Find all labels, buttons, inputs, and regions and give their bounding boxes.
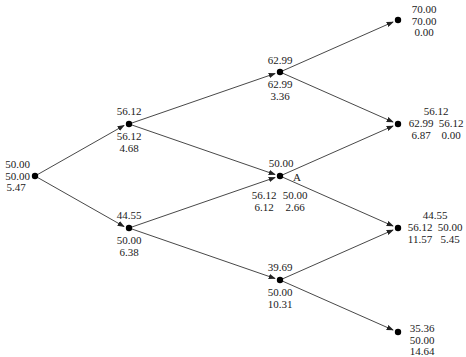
node-n31-left-labels: 56.12 11.57 <box>405 222 435 245</box>
node-n20-bottom-labels: 50.00 10.31 <box>264 287 296 310</box>
edge-n20-n31 <box>280 230 393 280</box>
n31-top-label: 44.55 <box>419 210 451 222</box>
node-n00-labels: 50.00 50.00 5.47 <box>2 159 30 194</box>
edge-n00-n10 <box>35 176 124 227</box>
node-n31 <box>395 225 401 231</box>
node-n21 <box>277 173 283 179</box>
n22-bottom-1: 62.99 <box>264 79 296 91</box>
edge-n10-n20 <box>129 228 275 279</box>
edge-n11-n22 <box>129 74 275 125</box>
node-n22 <box>277 69 283 75</box>
n30-value-3: 14.64 <box>406 346 438 357</box>
n32-left-1: 62.99 <box>407 118 435 130</box>
n31-left-2: 11.57 <box>405 234 435 246</box>
edge-n22-n32 <box>280 72 393 122</box>
n32-top-label: 56.12 <box>420 106 452 118</box>
node-n30 <box>395 329 401 335</box>
n11-top-label: 56.12 <box>113 106 145 118</box>
n21-top-label: 50.00 <box>265 158 297 170</box>
n30-value-1: 35.36 <box>406 323 438 335</box>
node-n20 <box>277 277 283 283</box>
n32-right-2: 0.00 <box>437 130 465 142</box>
n31-left-1: 56.12 <box>405 222 435 234</box>
node-n21-left-labels: 56.12 6.12 <box>250 190 278 213</box>
n21-right-1: 50.00 <box>281 190 309 202</box>
node-n32-right-labels: 56.12 0.00 <box>437 118 465 141</box>
n21-left-2: 6.12 <box>250 202 278 214</box>
n21-right-2: 2.66 <box>281 202 309 214</box>
node-n11-bottom-labels: 56.12 4.68 <box>113 131 145 154</box>
n20-bottom-2: 10.31 <box>264 299 296 311</box>
n10-bottom-1: 50.00 <box>113 235 145 247</box>
edge-n11-n21 <box>129 124 275 175</box>
node-n22-bottom-labels: 62.99 3.36 <box>264 79 296 102</box>
node-n30-labels: 35.36 50.00 14.64 <box>406 323 438 357</box>
n10-top-label: 44.55 <box>113 210 145 222</box>
edge-n00-n11 <box>35 126 124 177</box>
n11-bottom-1: 56.12 <box>113 131 145 143</box>
node-n33 <box>395 17 401 23</box>
n21-marker-label: A <box>293 172 301 184</box>
node-n21-right-labels: 50.00 2.66 <box>281 190 309 213</box>
n22-top-label: 62.99 <box>264 55 296 67</box>
n33-value-3: 0.00 <box>408 27 440 39</box>
edge-n20-n30 <box>280 280 393 330</box>
node-n10 <box>126 225 132 231</box>
n31-right-2: 5.45 <box>436 234 464 246</box>
node-n31-right-labels: 50.00 5.45 <box>436 222 464 245</box>
node-n11 <box>126 121 132 127</box>
node-n33-labels: 70.00 70.00 0.00 <box>408 4 440 39</box>
n31-right-1: 50.00 <box>436 222 464 234</box>
n00-value-3: 5.47 <box>2 182 30 194</box>
n00-value-1: 50.00 <box>2 159 30 171</box>
n33-value-1: 70.00 <box>408 4 440 16</box>
n32-left-2: 6.87 <box>407 130 435 142</box>
n22-bottom-2: 3.36 <box>264 91 296 103</box>
node-n32 <box>395 121 401 127</box>
tree-diagram <box>0 0 466 357</box>
n20-top-label: 39.69 <box>264 262 296 274</box>
n32-right-1: 56.12 <box>437 118 465 130</box>
n11-bottom-2: 4.68 <box>113 143 145 155</box>
node-n10-bottom-labels: 50.00 6.38 <box>113 235 145 258</box>
n20-bottom-1: 50.00 <box>264 287 296 299</box>
edge-n22-n33 <box>280 22 393 72</box>
n10-bottom-2: 6.38 <box>113 247 145 259</box>
node-n32-left-labels: 62.99 6.87 <box>407 118 435 141</box>
node-n00 <box>32 173 38 179</box>
n21-left-1: 56.12 <box>250 190 278 202</box>
